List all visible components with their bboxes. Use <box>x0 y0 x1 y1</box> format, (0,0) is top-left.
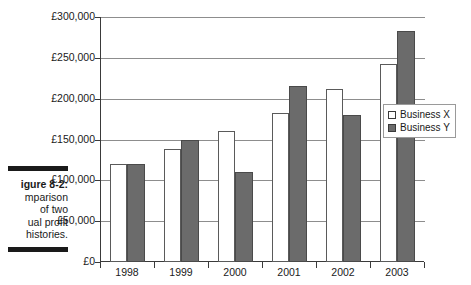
y-axis-label-50000: £50,000 <box>35 214 95 226</box>
bar-2003-business-x <box>380 64 398 262</box>
bar-chart: £0£50,000£100,000£150,000£200,000£250,00… <box>0 0 471 285</box>
legend-item-business-x: Business X <box>388 108 450 121</box>
bar-1998-business-x <box>110 164 128 262</box>
y-axis-label-100000: £100,000 <box>35 173 95 185</box>
bar-2001-business-y <box>289 86 307 262</box>
bar-2000-business-x <box>218 131 236 262</box>
x-axis-label-2000: 2000 <box>210 266 260 278</box>
bar-1999-business-y <box>181 140 199 263</box>
y-axis-label-250000: £250,000 <box>35 51 95 63</box>
legend-label-business-y: Business Y <box>400 121 450 134</box>
y-axis-label-200000: £200,000 <box>35 92 95 104</box>
x-axis-label-2001: 2001 <box>264 266 314 278</box>
y-axis-label-0: £0 <box>35 255 95 267</box>
bar-1999-business-x <box>164 149 182 262</box>
legend-label-business-x: Business X <box>400 108 450 121</box>
x-axis-label-1998: 1998 <box>102 266 152 278</box>
x-axis-label-2002: 2002 <box>318 266 368 278</box>
chart-legend: Business X Business Y <box>383 104 456 138</box>
filled-square-icon <box>388 124 396 132</box>
bar-2000-business-y <box>235 172 253 262</box>
x-axis-labels: 199819992000200120022003 <box>100 266 424 284</box>
x-axis-label-2003: 2003 <box>372 266 422 278</box>
bar-series-group <box>100 17 424 262</box>
x-axis-label-1999: 1999 <box>156 266 206 278</box>
bar-2002-business-x <box>326 89 344 262</box>
legend-item-business-y: Business Y <box>388 121 450 134</box>
x-tick-2003 <box>424 262 425 268</box>
y-axis-label-300000: £300,000 <box>35 10 95 22</box>
bar-2002-business-y <box>343 115 361 262</box>
hollow-square-icon <box>388 111 396 119</box>
y-axis-label-150000: £150,000 <box>35 133 95 145</box>
y-axis-labels: £0£50,000£100,000£150,000£200,000£250,00… <box>33 17 95 262</box>
bar-1998-business-y <box>127 164 145 262</box>
bar-2001-business-x <box>272 113 290 262</box>
bar-2003-business-y <box>397 31 415 262</box>
